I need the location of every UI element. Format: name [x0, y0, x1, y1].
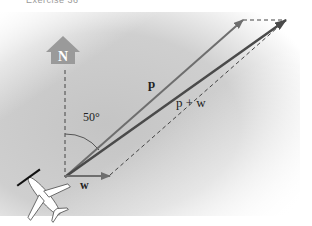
vector-sum-label: p + w — [176, 95, 206, 110]
vector-p-label: p — [148, 76, 155, 91]
angle-label: 50° — [83, 110, 100, 124]
vector-w-label: w — [80, 178, 89, 192]
north-label: N — [58, 49, 68, 64]
vector-diagram: N 50° p p + w w — [0, 0, 312, 226]
